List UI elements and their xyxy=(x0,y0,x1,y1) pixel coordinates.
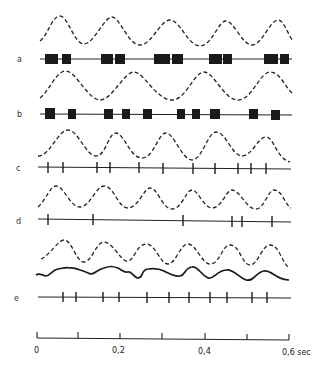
row-c-dashed-waveform xyxy=(38,130,290,162)
raster-waveform-figure: a b xyxy=(0,0,325,370)
row-e-dashed-waveform xyxy=(41,240,290,268)
axis-label-0-2: 0,2 xyxy=(112,346,125,355)
time-axis-line xyxy=(37,338,289,340)
axis-label-0-6-sec: 0,6 sec xyxy=(282,348,311,357)
axis-label-0: 0 xyxy=(34,346,39,355)
axis-label-0-4: 0,4 xyxy=(198,347,211,356)
row-label-d: d xyxy=(16,217,21,226)
row-a-dashed-waveform xyxy=(40,16,293,46)
row-a: a xyxy=(17,16,293,64)
row-e-solid-trace xyxy=(36,267,289,281)
row-label-e: e xyxy=(14,294,19,303)
row-label-c: c xyxy=(16,164,20,173)
row-d-baseline xyxy=(38,219,291,222)
row-label-a: a xyxy=(17,55,22,64)
row-c-baseline xyxy=(38,167,291,169)
row-d: d xyxy=(16,186,291,227)
row-c: c xyxy=(16,130,291,174)
row-b-dashed-waveform xyxy=(40,71,292,100)
row-b: b xyxy=(17,71,292,120)
row-e: e xyxy=(14,240,291,303)
row-label-b: b xyxy=(17,110,22,119)
time-axis: 0 0,2 0,4 0,6 sec xyxy=(34,332,311,357)
row-d-dashed-waveform xyxy=(38,186,291,209)
